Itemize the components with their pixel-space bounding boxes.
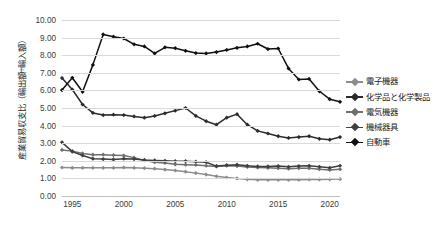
- gridline: [62, 20, 340, 21]
- y-axis-tick-label: 8.00: [14, 51, 56, 60]
- data-point-marker: [235, 46, 239, 50]
- data-point-marker: [245, 44, 249, 48]
- data-point-marker: [163, 111, 167, 115]
- legend-label: 化学品と化学製品: [366, 93, 430, 101]
- data-point-marker: [122, 165, 126, 169]
- data-point-marker: [276, 134, 280, 138]
- y-axis-tick-label: 7.00: [14, 68, 56, 77]
- gridline: [62, 143, 340, 144]
- legend-label: 機械器具: [366, 123, 398, 131]
- data-point-marker: [307, 164, 311, 168]
- data-point-marker: [70, 166, 74, 170]
- y-axis-tick-label: 10.00: [14, 16, 56, 25]
- data-point-marker: [173, 168, 177, 172]
- gridline: [62, 90, 340, 91]
- y-axis-tick-label: 3.00: [14, 139, 56, 148]
- data-point-marker: [173, 46, 177, 50]
- data-point-marker: [183, 49, 187, 53]
- y-axis-tick-label: 0.00: [14, 192, 56, 201]
- data-point-marker: [142, 116, 146, 120]
- series-line: [62, 34, 340, 101]
- data-point-marker: [286, 136, 290, 140]
- legend-marker-icon: [346, 137, 363, 147]
- x-axis-line: [62, 196, 340, 197]
- legend-marker-icon: [346, 77, 363, 87]
- gridline: [62, 126, 340, 127]
- y-axis-tick-label: 1.00: [14, 174, 56, 183]
- data-point-marker: [266, 131, 270, 135]
- series-自動車: [60, 32, 342, 104]
- data-point-marker: [173, 109, 177, 113]
- data-point-marker: [225, 163, 229, 167]
- data-point-marker: [111, 153, 115, 157]
- chart-legend: 電子機器化学品と化学製品電気機器機械器具自動車: [346, 74, 442, 150]
- x-axis-tick-label: 2020: [321, 200, 339, 209]
- data-point-marker: [132, 166, 136, 170]
- data-point-marker: [91, 153, 95, 157]
- data-point-marker: [101, 153, 105, 157]
- legend-marker-icon: [346, 107, 363, 117]
- data-point-marker: [101, 113, 105, 117]
- gridline: [62, 38, 340, 39]
- data-point-marker: [80, 166, 84, 170]
- legend-label: 電子機器: [366, 77, 398, 85]
- y-axis-tick-label: 4.00: [14, 121, 56, 130]
- legend-item-機械器具[interactable]: 機械器具: [346, 120, 442, 135]
- data-point-marker: [317, 165, 321, 169]
- data-point-marker: [214, 164, 218, 168]
- y-axis-tick-label: 6.00: [14, 86, 56, 95]
- legend-item-電気機器[interactable]: 電気機器: [346, 104, 442, 119]
- legend-marker-icon: [346, 122, 363, 132]
- legend-label: 電気機器: [366, 108, 398, 116]
- plot-area: [62, 20, 340, 196]
- data-point-marker: [132, 114, 136, 118]
- data-point-marker: [328, 138, 332, 142]
- data-point-marker: [111, 166, 115, 170]
- data-point-marker: [225, 48, 229, 52]
- data-point-marker: [204, 172, 208, 176]
- y-axis-tick-label: 9.00: [14, 33, 56, 42]
- data-point-marker: [91, 63, 95, 67]
- data-point-marker: [214, 50, 218, 54]
- data-point-marker: [194, 171, 198, 175]
- x-axis-tick-label: 2005: [166, 200, 184, 209]
- gridline: [62, 55, 340, 56]
- data-point-marker: [142, 166, 146, 170]
- data-point-marker: [297, 135, 301, 139]
- legend-item-電子機器[interactable]: 電子機器: [346, 74, 442, 89]
- data-point-marker: [163, 168, 167, 172]
- x-axis-tick-label: 2015: [269, 200, 287, 209]
- gridline: [62, 73, 340, 74]
- legend-item-自動車[interactable]: 自動車: [346, 135, 442, 150]
- x-axis-tick-label: 2000: [115, 200, 133, 209]
- line-chart: 産業貿易収支比（輸出額÷輸入額） 0.001.002.003.004.005.0…: [0, 0, 442, 233]
- legend-marker-icon: [346, 92, 363, 102]
- y-axis-tick-label: 2.00: [14, 156, 56, 165]
- legend-label: 自動車: [366, 138, 390, 146]
- data-point-marker: [101, 166, 105, 170]
- data-point-marker: [91, 166, 95, 170]
- data-point-marker: [317, 137, 321, 141]
- x-axis-tick-label: 2010: [218, 200, 236, 209]
- legend-item-化学品と化学製品[interactable]: 化学品と化学製品: [346, 89, 442, 104]
- y-axis-tick-label: 5.00: [14, 104, 56, 113]
- data-point-marker: [307, 134, 311, 138]
- data-point-marker: [122, 113, 126, 117]
- data-point-marker: [153, 114, 157, 118]
- gridline: [62, 108, 340, 109]
- data-point-marker: [111, 113, 115, 117]
- gridline: [62, 161, 340, 162]
- gridline: [62, 178, 340, 179]
- x-axis-tick-label: 1995: [63, 200, 81, 209]
- data-point-marker: [101, 32, 105, 36]
- data-point-marker: [183, 170, 187, 174]
- data-point-marker: [153, 167, 157, 171]
